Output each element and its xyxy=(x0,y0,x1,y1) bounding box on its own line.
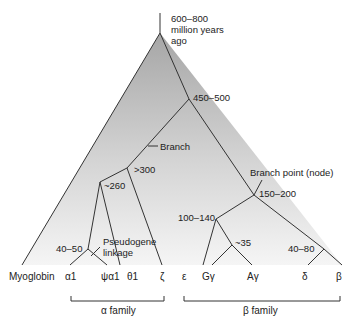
leaf-epsilon: ε xyxy=(182,271,186,282)
pseudogene-linkage-label: Pseudogene linkage xyxy=(103,236,156,258)
node-label-260: ~260 xyxy=(104,180,125,191)
node-label-100-140: 100–140 xyxy=(178,212,215,223)
leaf-myoglobin: Myoglobin xyxy=(9,271,55,282)
pseudogene-line-1: Pseudogene xyxy=(103,236,156,247)
beta-family-label: β family xyxy=(243,305,278,316)
branch-point-label: Branch point (node) xyxy=(250,167,333,178)
root-age-line-1: 600–800 xyxy=(171,13,224,24)
leaf-delta: δ xyxy=(302,271,308,282)
root-age-line-2: million years xyxy=(171,24,224,35)
pseudogene-line-2: linkage xyxy=(103,247,156,258)
leaf-zeta: ζ xyxy=(160,271,164,282)
leaf-a-gamma: Aγ xyxy=(247,271,259,282)
node-label-40-80: 40–80 xyxy=(288,243,314,254)
root-age-label: 600–800 million years ago xyxy=(171,13,224,46)
alpha-family-label: α family xyxy=(101,305,136,316)
leaf-psi-alpha1: ψα1 xyxy=(101,271,119,282)
leaf-beta: β xyxy=(336,271,342,282)
node-label-40-50: 40–50 xyxy=(56,243,82,254)
node-label-300: >300 xyxy=(134,164,155,175)
node-label-150-200: 150–200 xyxy=(259,188,296,199)
node-label-450-500: 450–500 xyxy=(193,92,230,103)
leaf-theta1: θ1 xyxy=(127,271,138,282)
branch-label: Branch xyxy=(160,141,190,152)
leaf-g-gamma: Gγ xyxy=(202,271,215,282)
node-label-35: ~35 xyxy=(235,237,251,248)
leaf-alpha1: α1 xyxy=(65,271,76,282)
root-age-line-3: ago xyxy=(171,35,224,46)
